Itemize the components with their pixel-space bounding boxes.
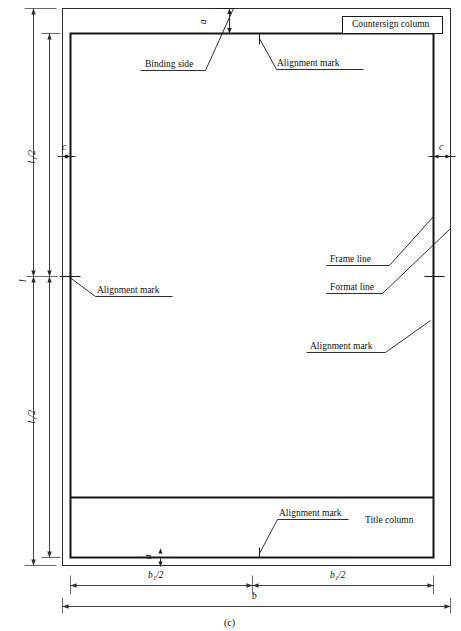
alignment-mark-left-label: Alignment mark xyxy=(97,286,160,296)
dimension-l1-half-lower-label: l₁/2 xyxy=(28,410,38,423)
dimension-a-top xyxy=(210,9,233,34)
dimension-a-top-label: a xyxy=(199,19,209,24)
dimension-l-total xyxy=(25,9,57,566)
l1-lower-text: l₁/2 xyxy=(27,410,37,423)
figure-canvas: Countersign column Binding side Alignmen… xyxy=(0,0,461,631)
frame-line-rect xyxy=(71,34,434,558)
dimension-l1-half-lower xyxy=(42,277,61,558)
binding-side-label: Binding side xyxy=(145,60,193,70)
dimension-l-total-label: l xyxy=(19,279,29,282)
alignment-mark-bottom-label: Alignment mark xyxy=(279,509,342,519)
dimension-b-total-label: b xyxy=(252,592,257,602)
dimension-a-bottom-label: a xyxy=(144,554,154,559)
countersign-column-label: Countersign column xyxy=(352,20,429,30)
dimension-b1-half-right-label: b₁/2 xyxy=(330,571,345,581)
dimension-l1-half-upper-label: l₁/2 xyxy=(28,150,38,163)
l1-upper-text: l₁/2 xyxy=(27,150,37,163)
leader-alignment-mark-bottom xyxy=(260,520,349,554)
alignment-mark-top-label: Alignment mark xyxy=(277,59,340,69)
alignment-mark-right-label: Alignment mark xyxy=(310,342,373,352)
format-line-label: Format line xyxy=(330,283,374,293)
drawing-vector-layer xyxy=(0,0,461,631)
dimension-c-left-label: c xyxy=(62,143,66,153)
frame-line-label: Frame line xyxy=(330,255,371,265)
dimension-c-right-label: c xyxy=(439,143,443,153)
figure-caption: (c) xyxy=(224,618,235,628)
dimension-b1-half-left-label: b₁/2 xyxy=(148,571,163,581)
dimension-c-left xyxy=(58,155,76,159)
title-column-label: Title column xyxy=(365,516,413,526)
dimension-l1-half-upper xyxy=(42,34,61,277)
